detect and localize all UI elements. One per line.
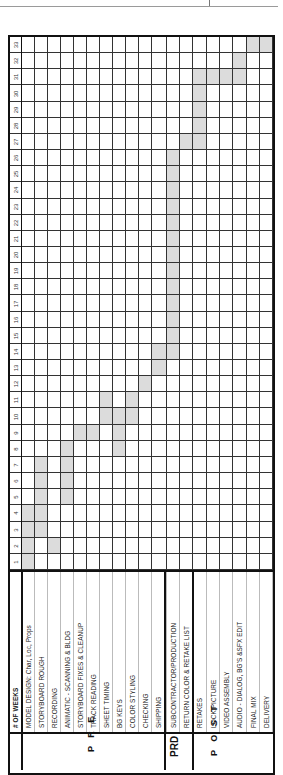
week-cell <box>167 392 180 408</box>
week-number: 33 <box>12 38 20 52</box>
week-cell <box>48 215 61 231</box>
week-cell <box>139 279 152 295</box>
week-cell <box>35 312 48 328</box>
week-cell <box>74 102 87 118</box>
week-cell <box>193 360 207 376</box>
week-cell <box>152 392 167 408</box>
week-cell <box>233 473 247 489</box>
week-cell <box>247 263 260 279</box>
week-cell <box>113 295 126 311</box>
week-cell <box>113 263 126 279</box>
week-cell <box>87 554 100 570</box>
scheduled-week-cell <box>233 53 247 69</box>
week-cell <box>247 425 260 441</box>
week-cell <box>87 215 100 231</box>
week-cell <box>260 328 273 344</box>
week-cell <box>22 295 35 311</box>
week-cell <box>233 554 247 570</box>
week-cell <box>126 328 139 344</box>
week-cell <box>247 134 260 150</box>
week-cell <box>260 53 273 69</box>
week-cell <box>260 473 273 489</box>
week-cell <box>48 360 61 376</box>
week-cell <box>74 457 87 473</box>
week-cell <box>100 344 113 360</box>
week-number: 16 <box>12 313 20 327</box>
week-cell <box>100 134 113 150</box>
week-cell <box>220 473 233 489</box>
week-cell <box>48 295 61 311</box>
week-cell <box>207 328 220 344</box>
scheduled-week-cell <box>139 376 152 392</box>
scheduled-week-cell <box>193 85 207 101</box>
week-cell <box>220 53 233 69</box>
week-cell <box>113 69 126 85</box>
label-separator <box>125 570 126 732</box>
week-cell <box>260 376 273 392</box>
week-cell <box>233 538 247 554</box>
week-cell <box>233 312 247 328</box>
week-cell <box>139 408 152 424</box>
week-cell <box>48 182 61 198</box>
week-cell <box>113 182 126 198</box>
week-cell <box>74 85 87 101</box>
week-cell <box>247 489 260 505</box>
week-cell <box>247 328 260 344</box>
week-cell <box>126 53 139 69</box>
week-cell <box>22 328 35 344</box>
week-cell <box>247 505 260 521</box>
scheduled-week-cell <box>35 522 48 538</box>
scheduled-week-cell <box>167 199 180 215</box>
week-cell <box>233 150 247 166</box>
week-cell <box>167 425 180 441</box>
week-cell <box>220 279 233 295</box>
week-number: 13 <box>12 361 20 375</box>
week-cell <box>48 53 61 69</box>
week-cell <box>74 134 87 150</box>
week-cell <box>22 118 35 134</box>
week-cell <box>193 392 207 408</box>
week-cell <box>113 538 126 554</box>
week-cell <box>22 360 35 376</box>
week-cell <box>220 441 233 457</box>
week-cell <box>74 263 87 279</box>
week-cell <box>139 263 152 279</box>
week-cell <box>87 295 100 311</box>
week-cell <box>22 312 35 328</box>
week-cell <box>167 102 180 118</box>
week-cell <box>247 166 260 182</box>
week-cell <box>113 376 126 392</box>
week-cell <box>260 150 273 166</box>
week-cell <box>22 263 35 279</box>
week-cell <box>247 279 260 295</box>
week-cell <box>126 505 139 521</box>
week-cell <box>260 425 273 441</box>
week-cell <box>260 360 273 376</box>
week-cell <box>260 295 273 311</box>
week-cell <box>193 166 207 182</box>
label-separator <box>179 570 180 732</box>
week-cell <box>180 457 193 473</box>
week-cell <box>152 457 167 473</box>
week-cell <box>74 231 87 247</box>
week-cell <box>100 457 113 473</box>
week-cell <box>100 231 113 247</box>
week-cell <box>247 102 260 118</box>
week-number: 15 <box>12 329 20 343</box>
week-cell <box>152 199 167 215</box>
week-cell <box>22 199 35 215</box>
week-cell <box>22 134 35 150</box>
week-cell <box>61 295 74 311</box>
week-cell <box>126 312 139 328</box>
week-cell <box>35 85 48 101</box>
week-number: 31 <box>12 70 20 84</box>
scheduled-week-cell <box>61 489 74 505</box>
week-cell <box>247 215 260 231</box>
week-cell <box>193 215 207 231</box>
week-cell <box>22 279 35 295</box>
week-cell <box>167 473 180 489</box>
week-cell <box>87 150 100 166</box>
week-cell <box>180 392 193 408</box>
week-cell <box>233 425 247 441</box>
week-number: 8 <box>12 442 20 456</box>
